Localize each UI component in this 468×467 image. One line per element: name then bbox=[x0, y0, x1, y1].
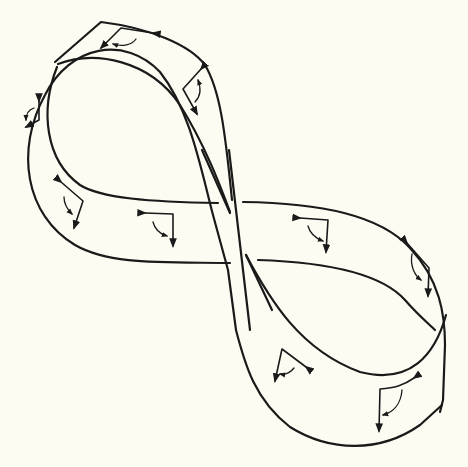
orientation-marker-5 bbox=[145, 213, 173, 246]
lower-loop-outer-edge bbox=[236, 330, 442, 446]
upper-loop-inner-edge bbox=[58, 58, 230, 212]
crossing-strand-3 bbox=[246, 255, 272, 310]
orientation-marker-4 bbox=[61, 182, 83, 228]
orientation-marker-1 bbox=[101, 28, 153, 48]
orientation-marker-6 bbox=[300, 218, 328, 252]
upper-loop-top-edge bbox=[55, 22, 232, 200]
orientation-marker-8 bbox=[275, 349, 306, 381]
lower-loop-inner-curve bbox=[246, 255, 446, 375]
mobius-strip-figure bbox=[0, 0, 468, 467]
orientation-marker-9 bbox=[379, 378, 414, 431]
mobius-strip-drawing bbox=[0, 0, 468, 467]
lower-loop-top-edge bbox=[243, 202, 445, 412]
lower-loop-inner-edge bbox=[258, 260, 435, 330]
upper-loop-outer-edge bbox=[28, 50, 236, 330]
orientation-marker-2 bbox=[183, 69, 201, 114]
